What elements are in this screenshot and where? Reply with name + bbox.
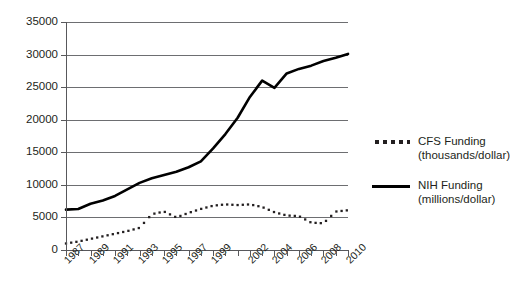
legend-label-line2: (thousands/dollar) [418, 148, 517, 162]
y-axis-tick-label: 35000 [2, 16, 58, 28]
y-axis-tick-label: 25000 [2, 81, 58, 93]
y-axis-tick-label: 30000 [2, 49, 58, 61]
x-axis-tick-mark [78, 250, 79, 256]
y-axis-line [66, 22, 67, 251]
legend-entry: CFS Funding(thousands/dollar) [372, 134, 517, 162]
legend-label: CFS Funding(thousands/dollar) [418, 134, 517, 162]
legend-dotted-line-icon [372, 140, 410, 144]
legend-label-line2: (millions/dollar) [418, 192, 517, 206]
x-axis-tick-mark [311, 250, 312, 256]
x-axis-tick-mark [127, 250, 128, 256]
series-line-cfs [65, 203, 348, 244]
x-axis-tick-mark [201, 250, 202, 256]
chart-container: 05000100001500020000250003000035000 1987… [0, 0, 517, 291]
legend-label-line1: CFS Funding [418, 134, 517, 148]
x-axis-tick-mark [287, 250, 288, 256]
legend-solid-line-icon [372, 185, 410, 188]
plot-area [66, 22, 348, 250]
x-axis-tick-mark [176, 250, 177, 256]
legend-entry: NIH Funding(millions/dollar) [372, 178, 517, 206]
y-axis-labels: 05000100001500020000250003000035000 [0, 0, 58, 291]
x-axis-tick-mark [336, 250, 337, 256]
legend: CFS Funding(thousands/dollar)NIH Funding… [372, 134, 517, 222]
y-axis-tick-label: 5000 [2, 211, 58, 223]
series-line-nih [66, 54, 348, 210]
x-axis-tick-mark [225, 250, 226, 256]
legend-label: NIH Funding(millions/dollar) [418, 178, 517, 206]
series-lines [66, 22, 348, 250]
x-axis-tick-mark [262, 250, 263, 256]
y-axis-tick-label: 20000 [2, 114, 58, 126]
y-axis-tick-label: 15000 [2, 146, 58, 158]
legend-label-line1: NIH Funding [418, 178, 517, 192]
x-axis-tick-mark [152, 250, 153, 256]
y-axis-tick-label: 10000 [2, 179, 58, 191]
x-axis-tick-mark [238, 250, 239, 256]
x-axis-tick-mark [103, 250, 104, 256]
y-axis-tick-label: 0 [2, 244, 58, 256]
